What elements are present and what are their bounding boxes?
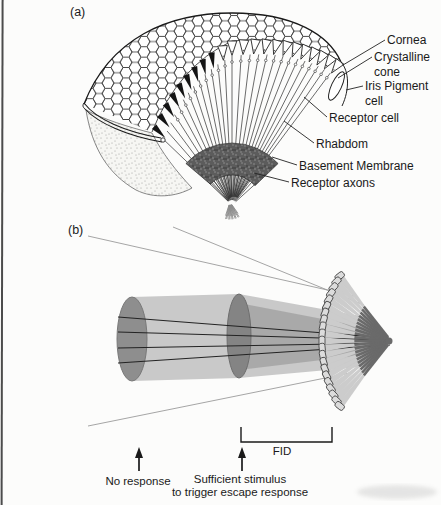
label-receptor-cell: Receptor cell [329, 111, 399, 126]
label-iris-pigment-cell: Iris Pigment cell [365, 79, 437, 109]
label-sufficient-stimulus: Sufficient stimulus to trigger escape re… [152, 473, 328, 499]
axon-bundle-tassel [226, 204, 240, 219]
sufficient-stimulus-line2: to trigger escape response [152, 486, 328, 499]
label-rhabdom: Rhabdom [316, 137, 368, 152]
sufficient-stimulus-line1: Sufficient stimulus [152, 473, 328, 486]
dome-facets [84, 13, 341, 132]
figure-compound-eye: (a) (b) Cornea Crystalline cone Iris Pig… [0, 0, 441, 505]
sufficient-stimulus-arrow-icon [238, 447, 246, 471]
fan-apex [386, 338, 393, 345]
escape-response-diagram [88, 227, 393, 471]
rim-end-knob [161, 138, 165, 142]
panel-b-tag: (b) [68, 223, 83, 239]
ommatidia-rods [354, 307, 387, 376]
label-basement-membrane: Basement Membrane [299, 159, 414, 174]
no-response-arrow-icon [135, 447, 143, 471]
label-fid: FID [262, 444, 302, 458]
stimulus-disc-far [117, 297, 147, 381]
scan-smudge [357, 485, 437, 499]
label-crystalline-cone: Crystalline cone [374, 50, 438, 80]
label-receptor-axons: Receptor axons [291, 176, 375, 191]
panel-a-tag: (a) [70, 5, 85, 21]
ommatidia-fan [319, 271, 393, 411]
label-cornea: Cornea [387, 33, 426, 48]
page-edge-line [2, 0, 3, 505]
fid-bracket [241, 427, 332, 442]
